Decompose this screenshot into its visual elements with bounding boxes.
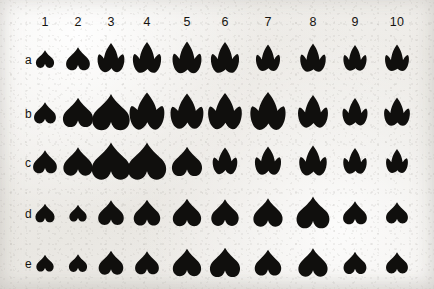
- leaf-d-1: [35, 203, 56, 224]
- leaf-b-10: [381, 97, 414, 131]
- column-header-1: 1: [41, 16, 48, 29]
- leaf-e-9: [343, 251, 368, 277]
- leaf-d-2: [69, 204, 88, 223]
- leaf-c-5: [171, 146, 204, 180]
- leaf-e-1: [36, 254, 55, 273]
- column-header-8: 8: [309, 16, 316, 29]
- leaf-a-10: [382, 44, 413, 76]
- leaf-a-5: [169, 41, 206, 79]
- leaf-c-6: [210, 147, 241, 179]
- leaf-e-4: [134, 251, 160, 278]
- leaf-b-9: [339, 98, 371, 131]
- leaf-silhouette-plate: 12345678910 abcde: [0, 0, 434, 289]
- leaf-b-4: [126, 92, 169, 136]
- leaf-a-2: [65, 47, 91, 74]
- column-header-5: 5: [183, 16, 190, 29]
- leaf-b-7: [246, 92, 290, 137]
- column-header-4: 4: [143, 16, 150, 29]
- column-header-3: 3: [107, 16, 114, 29]
- row-label-c: c: [25, 157, 31, 169]
- leaf-d-7: [252, 198, 284, 231]
- leaf-a-3: [94, 43, 128, 78]
- column-header-2: 2: [74, 16, 81, 29]
- leaf-e-8: [297, 248, 329, 281]
- leaf-a-4: [129, 42, 165, 79]
- leaf-d-8: [295, 196, 331, 233]
- leaf-b-8: [294, 95, 332, 134]
- leaf-e-6: [209, 247, 242, 281]
- leaf-c-1: [32, 150, 58, 177]
- leaf-e-7: [254, 249, 283, 279]
- column-header-10: 10: [390, 16, 404, 29]
- column-header-6: 6: [221, 16, 228, 29]
- row-label-d: d: [25, 208, 32, 220]
- leaf-a-9: [340, 45, 370, 76]
- leaf-a-6: [207, 42, 243, 79]
- leaf-c-7: [252, 146, 285, 180]
- leaf-e-3: [98, 250, 125, 278]
- column-header-9: 9: [351, 16, 358, 29]
- leaf-b-6: [204, 93, 246, 136]
- leaf-b-1: [33, 102, 57, 126]
- row-label-e: e: [25, 258, 32, 270]
- leaf-a-8: [297, 43, 330, 77]
- leaf-d-4: [133, 199, 162, 229]
- leaf-e-5: [172, 248, 203, 280]
- leaf-c-10: [383, 149, 411, 178]
- leaf-c-4: [126, 142, 168, 185]
- leaf-c-9: [340, 148, 370, 179]
- leaf-b-5: [167, 93, 208, 135]
- leaf-d-3: [97, 200, 125, 229]
- column-header-7: 7: [264, 16, 271, 29]
- leaf-a-1: [35, 50, 55, 70]
- leaf-e-10: [385, 252, 409, 276]
- leaf-c-8: [296, 145, 331, 181]
- leaf-d-9: [342, 201, 368, 228]
- leaf-d-6: [210, 199, 240, 230]
- row-label-a: a: [25, 54, 32, 66]
- leaf-d-5: [172, 198, 203, 230]
- leaf-a-7: [253, 44, 284, 76]
- leaf-d-10: [385, 202, 409, 226]
- row-label-b: b: [25, 108, 32, 120]
- leaf-e-2: [68, 254, 88, 274]
